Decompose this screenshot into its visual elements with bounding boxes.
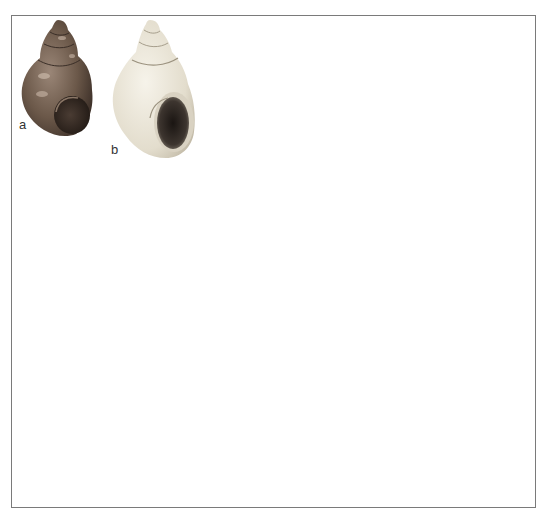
panel-label-b: b (111, 143, 118, 156)
shell-a-image (14, 16, 104, 140)
shell-b-image (106, 18, 200, 160)
panel-label-a: a (19, 118, 26, 131)
